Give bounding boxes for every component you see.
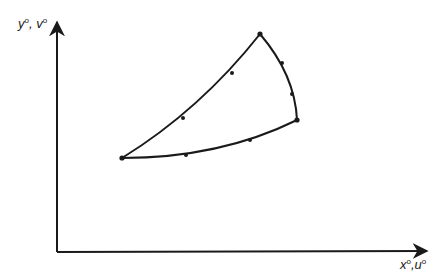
vertex-left	[119, 155, 124, 160]
y-axis-label: yo, vo	[18, 16, 47, 31]
marker-point	[280, 61, 284, 65]
marker-point	[184, 153, 188, 157]
x-axis	[57, 251, 427, 252]
marker-point	[181, 116, 185, 120]
marker-point	[230, 71, 234, 75]
marker-point	[290, 92, 294, 96]
marker-point	[248, 138, 252, 142]
vertex-right	[294, 117, 299, 122]
region-upper-edge	[122, 34, 260, 158]
vertex-top	[257, 31, 262, 36]
region-lower-edge	[122, 120, 297, 158]
x-axis-label: xo,uo	[400, 257, 426, 272]
region-right-edge	[260, 34, 297, 120]
diagram-canvas	[0, 0, 443, 278]
